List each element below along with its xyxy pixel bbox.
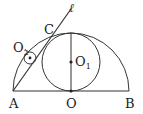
label-o1: O1 xyxy=(75,54,91,71)
label-c: C xyxy=(44,22,54,37)
label-a: A xyxy=(8,96,19,111)
label-line-l: ℓ xyxy=(69,1,74,15)
label-o: O xyxy=(66,96,77,111)
point-dot-o xyxy=(69,89,72,92)
label-o2: O2 xyxy=(13,40,29,57)
center-dot-o1 xyxy=(69,60,72,63)
geometry-diagram: ℓ C O2 O1 A O B xyxy=(0,0,143,114)
center-dot-o2 xyxy=(29,57,32,60)
label-b: B xyxy=(125,96,135,111)
